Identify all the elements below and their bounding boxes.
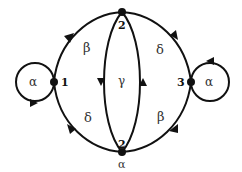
node-2-top-label: 2 <box>118 19 126 32</box>
loop-3-label: α <box>205 75 213 89</box>
node-3-label: 3 <box>177 76 185 89</box>
edge-3-2bottom-label: β <box>157 109 165 124</box>
edge-2bottom-1-label: δ <box>84 110 92 125</box>
loop-1-label: α <box>29 75 37 89</box>
edge-1-2top-label: β <box>83 40 91 55</box>
node-1-label: 1 <box>61 76 69 89</box>
node-3 <box>187 78 195 86</box>
node-2-bottom-label: 2 <box>118 138 126 151</box>
node-1 <box>50 78 58 86</box>
graph-diagram: 1 2 2 α 3 α β δ α δ β γ <box>0 0 242 172</box>
node-2-top <box>118 8 126 16</box>
center-gamma-label: γ <box>118 74 125 88</box>
edge-2top-3-label: δ <box>156 42 164 57</box>
node-2-bottom-sublabel: α <box>118 158 126 171</box>
